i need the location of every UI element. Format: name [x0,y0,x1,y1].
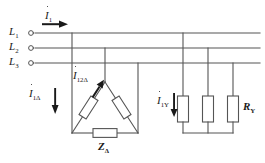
delta-resistor-right [112,96,131,119]
component-label-Z-delta: ZΔ [98,141,109,155]
delta-side-right-lower [127,115,139,133]
delta-side-left-lower [72,115,84,133]
current-arrow-I1D [52,88,59,114]
schematic-svg [0,0,265,163]
current-label-I1D: I1Δ [29,88,40,102]
terminal-L1 [29,31,34,36]
delta-resistor-bottom [93,129,117,138]
terminal-L2 [29,46,34,51]
current-label-I12D: I12Δ [73,70,88,84]
terminal-L3 [29,61,34,66]
component-label-R-Y: RY [243,101,255,115]
current-arrow-I12D [90,78,107,100]
star-resistor-2 [203,96,214,122]
star-resistor-1 [178,96,189,122]
delta-resistor-left [79,96,98,119]
star-resistor-3 [228,96,239,122]
phase-label-L1: L1 [9,26,19,40]
circuit-diagram: L1 L2 L3 I1 I12Δ I1Δ I1Y ZΔ RY [0,0,265,163]
current-arrow-I1Y [171,93,178,117]
phase-label-L3: L3 [9,56,19,70]
phase-label-L2: L2 [9,41,19,55]
current-label-I1Y: I1Y [157,95,169,109]
current-label-I1: I1 [45,10,52,24]
delta-side-right-upper [105,82,117,100]
